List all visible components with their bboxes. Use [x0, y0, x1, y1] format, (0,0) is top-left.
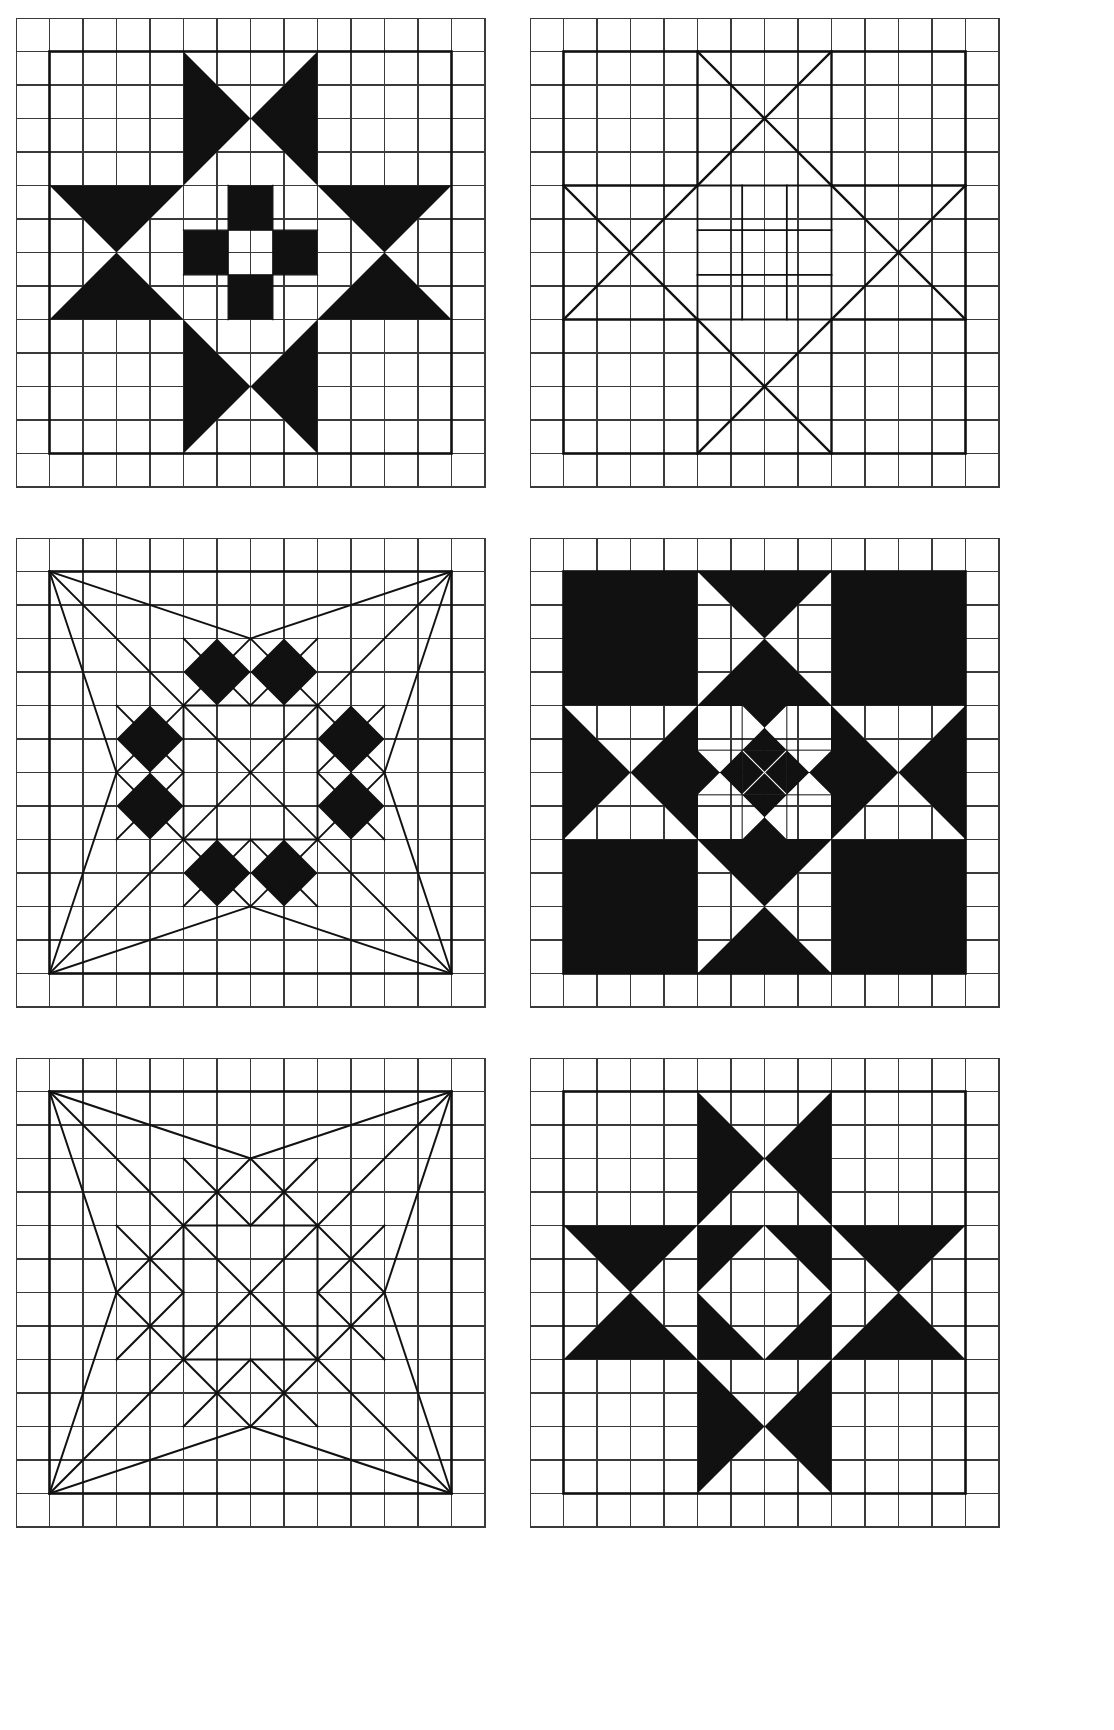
center-patch-square	[273, 230, 318, 275]
nested-star-filled-panel	[530, 538, 1000, 1008]
pinwheel-star-filled-panel	[530, 1058, 1000, 1528]
diamond-star-filled-panel	[16, 538, 486, 1008]
graph-paper-grid	[530, 1058, 1000, 1528]
mini-point-top-a	[742, 706, 787, 728]
ohio-star-outline-panel	[530, 18, 1000, 488]
corner-square-bl	[564, 840, 698, 974]
ohio-star-filled-diagram	[16, 18, 486, 488]
diamond-star-outline-panel	[16, 1058, 486, 1528]
center-patch-square	[184, 230, 229, 275]
pinwheel-star-filled-diagram	[530, 1058, 1000, 1528]
corner-square-tr	[832, 572, 966, 706]
center-patch-square	[228, 186, 273, 231]
ohio-star-filled-panel	[16, 18, 486, 488]
center-patch-square	[228, 275, 273, 320]
diamond-star-outline-diagram	[16, 1058, 486, 1528]
diamond-star-filled-diagram	[16, 538, 486, 1008]
nested-star-filled-block	[564, 572, 966, 974]
graph-paper-grid	[530, 18, 1000, 488]
corner-square-br	[832, 840, 966, 974]
worksheet-sheet	[0, 0, 1114, 1730]
nested-star-filled-diagram	[530, 538, 1000, 1008]
mini-point-bot-a	[742, 817, 787, 839]
mini-point-right-a	[809, 750, 831, 795]
mini-point-left-a	[698, 750, 720, 795]
graph-paper-grid	[16, 18, 486, 488]
corner-square-tl	[564, 572, 698, 706]
ohio-star-outline-diagram	[530, 18, 1000, 488]
